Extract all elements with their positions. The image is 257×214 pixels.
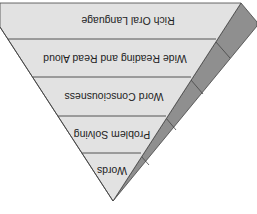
layer-label-word-consciousness: Word Consciousness (64, 91, 163, 103)
pyramid-diagram: Rich Oral Language Wide Reading and Read… (0, 0, 257, 214)
layer-label-problem-solving: Problem Solving (74, 129, 151, 141)
layer-label-wide-reading: Wide Reading and Read Aloud (43, 53, 187, 65)
layer-label-words: Words (97, 165, 127, 177)
layer-label-rich-oral-language: Rich Oral Language (81, 15, 175, 27)
